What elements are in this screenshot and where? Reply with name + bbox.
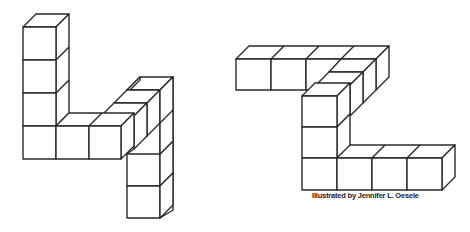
- cube-shape-right: [236, 46, 455, 190]
- illustrator-credit: Illustrated by Jennifer L. Oesele: [312, 191, 419, 200]
- cube-shape-left: [23, 14, 173, 218]
- vertical-column-left: [23, 14, 69, 126]
- vertical-column-right: [302, 83, 350, 158]
